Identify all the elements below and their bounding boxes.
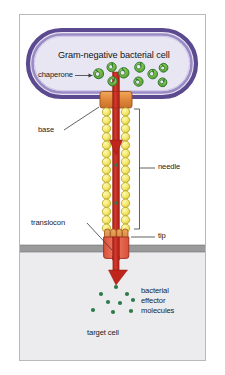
- in-transit-effector-dot: [114, 201, 118, 205]
- label-effector-molecules: bacterial effector molecules: [141, 286, 199, 316]
- base-channel: [113, 92, 120, 109]
- bacterial-cell-title: Gram-negative bacterial cell: [58, 51, 170, 61]
- effector-dot: [118, 301, 122, 305]
- effector-dot: [111, 310, 115, 314]
- effector-dot: [129, 309, 133, 313]
- label-effector-line-1: bacterial: [141, 286, 199, 296]
- figure-root: Gram-negative bacterial cell chaperone b…: [0, 0, 225, 375]
- label-effector-line-3: molecules: [141, 306, 199, 316]
- needle-left-column: [102, 108, 110, 233]
- injectisome-base: [100, 92, 132, 109]
- label-translocon: translocon: [31, 219, 65, 227]
- effector-dot: [114, 285, 118, 289]
- label-base: base: [38, 126, 54, 134]
- in-transit-effector-dot: [114, 163, 118, 167]
- effector-dot: [99, 292, 103, 296]
- label-needle: needle: [158, 163, 180, 171]
- effector-dot: [131, 298, 135, 302]
- label-target-cell: target cell: [87, 329, 119, 337]
- upper-secretion-arrow: [110, 140, 123, 155]
- effector-dot: [106, 300, 110, 304]
- label-effector-line-2: effector: [141, 296, 199, 306]
- bracket-needle: [134, 109, 140, 229]
- leader-base: [64, 107, 99, 130]
- effector-dot: [125, 292, 129, 296]
- needle-right-column: [121, 108, 129, 233]
- label-chaperone: chaperone: [38, 71, 73, 79]
- effector-dot: [91, 308, 95, 312]
- label-tip: tip: [158, 232, 166, 240]
